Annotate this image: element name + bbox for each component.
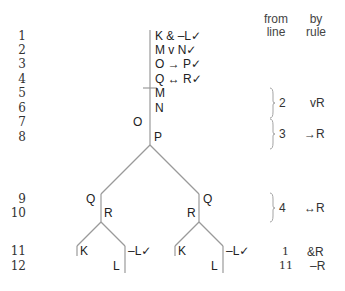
left-branch-k: K [80, 244, 88, 258]
brace-lines-9-10 [270, 193, 275, 222]
premise-4: Q ↔ R✓ [155, 72, 202, 86]
line-7-formula: O [133, 115, 142, 129]
justification-rule: →R [304, 127, 325, 141]
line-number: 3 [4, 57, 26, 71]
brace-lines-7-8 [270, 119, 275, 149]
premise-3: O → P✓ [155, 57, 201, 71]
left-branch-r: R [104, 206, 113, 220]
brace-lines-5-6 [270, 88, 275, 118]
right-branch-neg-l: –L✓ [226, 244, 249, 258]
line-number: 6 [4, 101, 26, 115]
right-branch-line [150, 145, 199, 194]
justification-from: 4 [279, 201, 286, 215]
line-number: 8 [4, 130, 26, 144]
justification-from: 1 [282, 245, 289, 259]
justification-from: 11 [279, 259, 293, 273]
left-branch-neg-l: –L✓ [128, 244, 151, 258]
header-rule: rule [300, 26, 332, 39]
left-right-branch [101, 222, 125, 246]
justification-rule: –R [310, 259, 325, 273]
justification-rule: ↔R [304, 201, 325, 215]
justification-rule: vR [310, 96, 325, 110]
justification-rule: &R [307, 245, 324, 259]
premise-1: K & –L✓ [155, 29, 201, 43]
right-branch-l: L [211, 259, 218, 273]
left-branch-line [101, 145, 150, 194]
right-branch-k: K [178, 244, 186, 258]
line-number: 4 [4, 72, 26, 86]
left-branch-q: Q [86, 192, 95, 206]
left-left-branch [77, 222, 101, 246]
line-6-formula: N [155, 101, 164, 115]
right-branch-q: Q [203, 192, 212, 206]
header-line: line [258, 26, 294, 39]
from-line-header: from line [258, 13, 294, 39]
right-right-branch [199, 222, 223, 246]
premise-2: M v N✓ [155, 43, 196, 57]
justification-from: 3 [279, 127, 286, 141]
line-number: 9 [4, 192, 26, 206]
by-rule-header: by rule [300, 13, 332, 39]
line-number: 11 [4, 244, 26, 258]
line-number: 7 [4, 115, 26, 129]
line-number: 10 [4, 206, 26, 220]
right-left-branch [175, 222, 199, 246]
right-branch-r: R [187, 206, 196, 220]
line-5-formula: M [155, 86, 165, 100]
truth-tree-diagram: from line by rule 1 2 3 4 5 6 7 8 9 10 1… [0, 0, 345, 291]
line-number: 2 [4, 43, 26, 57]
line-number: 5 [4, 86, 26, 100]
line-number: 12 [4, 259, 26, 273]
left-branch-l: L [113, 259, 120, 273]
line-8-formula: P [154, 130, 162, 144]
justification-from: 2 [279, 96, 286, 110]
line-number: 1 [4, 29, 26, 43]
